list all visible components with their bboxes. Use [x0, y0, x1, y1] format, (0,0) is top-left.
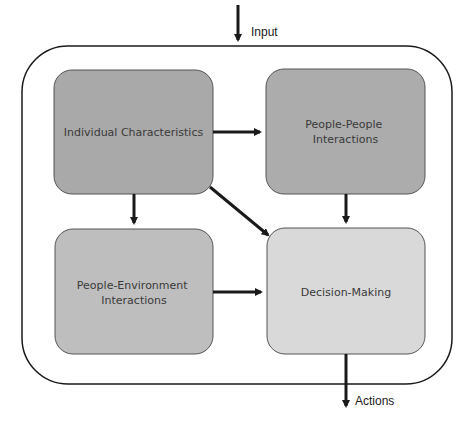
- input-label: Input: [251, 25, 278, 39]
- decision-making-label: Decision-Making: [301, 286, 391, 299]
- individual-characteristics-line-1: Individual Characteristics: [64, 126, 204, 139]
- actions-label: Actions: [355, 394, 394, 408]
- individual-characteristics-label: Individual Characteristics: [64, 126, 204, 139]
- people-people-line-2: Interactions: [313, 133, 379, 146]
- people-environment-line-1: People-Environment: [77, 279, 188, 292]
- decision-making-line-1: Decision-Making: [301, 286, 391, 299]
- people-people-box: [266, 69, 425, 194]
- diagram-canvas: Input Individual Characteristics People-…: [0, 0, 473, 433]
- people-environment-line-2: Interactions: [101, 294, 167, 307]
- people-people-line-1: People-People: [305, 118, 382, 131]
